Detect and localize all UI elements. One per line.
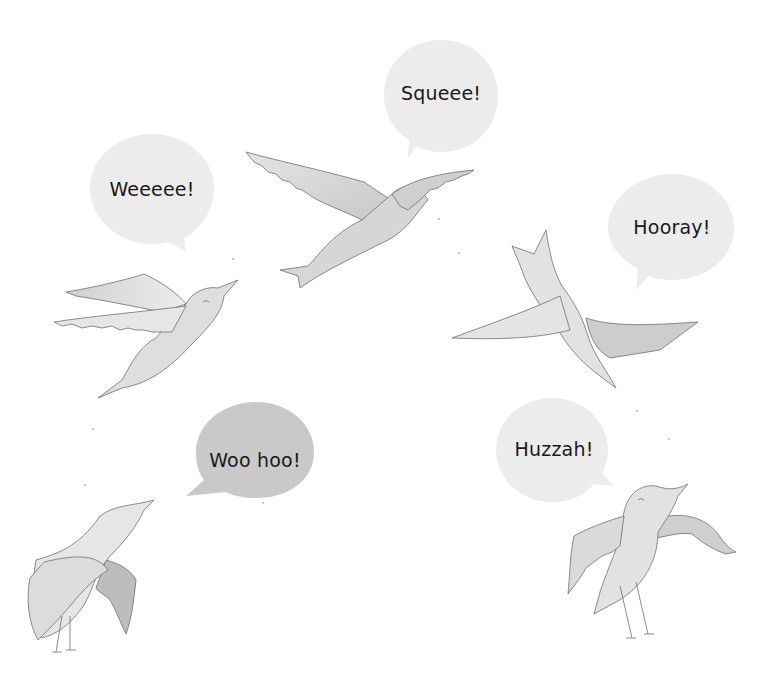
speech-bubble-text: Woo hoo! <box>186 449 316 471</box>
bird-flying-up <box>52 272 244 416</box>
speech-bubble-squeee: Squeee! <box>382 38 500 158</box>
bird-upside-down <box>450 226 702 394</box>
speck <box>636 410 638 412</box>
speech-bubble-text: Squeee! <box>382 82 500 104</box>
bird-gliding <box>242 148 478 294</box>
speck <box>84 484 86 486</box>
bird-upside-down-icon <box>450 226 702 390</box>
speck <box>232 258 234 260</box>
speck <box>438 218 440 220</box>
speck <box>668 438 670 440</box>
bird-perched-right-icon <box>564 474 740 644</box>
bird-flying-up-icon <box>52 272 244 412</box>
bird-illustration: Squeee! Weeeee! Hooray! Woo hoo! Huzzah! <box>0 0 771 680</box>
bird-perched-right <box>564 474 740 648</box>
bird-perched-left <box>16 498 160 658</box>
speck <box>262 502 264 504</box>
speck <box>92 428 94 430</box>
speech-bubble-weeeee: Weeeee! <box>86 132 218 252</box>
bird-perched-left-icon <box>16 498 160 654</box>
speech-bubble-text: Weeeee! <box>86 178 218 200</box>
speck <box>458 252 460 254</box>
bird-gliding-icon <box>242 148 478 290</box>
speech-bubble-text: Huzzah! <box>494 438 614 460</box>
